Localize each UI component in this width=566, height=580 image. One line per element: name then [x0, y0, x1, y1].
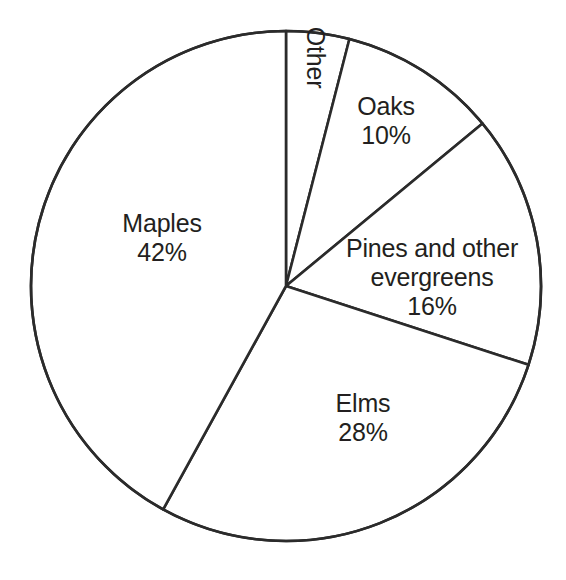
pie-label-pines-and-other-evergreens: Pines and other evergreens 16% [332, 234, 532, 321]
pie-label-oaks: Oaks 10% [300, 92, 472, 150]
pie-chart-canvas: Maples 42% Other Oaks 10% Pines and othe… [0, 0, 566, 580]
pie-label-maples: Maples 42% [62, 209, 262, 267]
pie-label-elms: Elms 28% [268, 389, 458, 447]
